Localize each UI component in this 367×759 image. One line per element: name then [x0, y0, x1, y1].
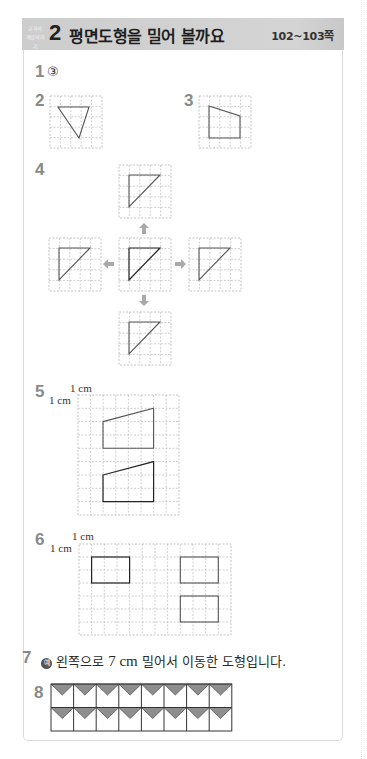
arrow-up-icon: [139, 223, 149, 234]
figure-q6: [79, 544, 231, 635]
figure-q4-bottom: [119, 312, 171, 365]
section-number: 2: [49, 20, 61, 46]
question-number-2: 2: [35, 91, 44, 111]
figure-q4-left: [49, 238, 101, 291]
arrow-right-icon: [175, 259, 186, 269]
unit-label-top: 1 cm: [72, 530, 94, 542]
figure-q3: [199, 96, 251, 148]
figure-q4-right: [189, 238, 241, 291]
unit-label-left: 1 cm: [50, 542, 72, 554]
example-mark: 예: [41, 658, 52, 669]
question-number-8: 8: [34, 683, 43, 703]
unit-label-left: 1 cm: [49, 394, 71, 406]
answer-7: 예왼쪽으로 7 cm 밀어서 이동한 도형입니다.: [37, 651, 286, 670]
figure-q4-top: [119, 165, 171, 218]
section-header: 교과서 개념익히기 2 평면도형을 밀어 볼까요 102~103쪽: [22, 18, 344, 50]
figure-q2: [50, 96, 102, 148]
page-range: 102~103쪽: [271, 27, 334, 43]
question-number-1: 1: [35, 62, 44, 82]
section-tag: 교과서 개념익히기: [25, 24, 45, 51]
question-number-4: 4: [35, 160, 44, 180]
question-number-3: 3: [184, 91, 193, 111]
section-title: 평면도형을 밀어 볼까요: [69, 23, 224, 47]
figure-q5: [78, 395, 179, 515]
figure-q4-center: [119, 238, 171, 291]
page-guide-line: [361, 0, 362, 759]
figure-q8-tile-pattern: [51, 684, 233, 732]
question-number-5: 5: [35, 382, 44, 402]
question-number-7: 7: [22, 648, 31, 668]
question-number-6: 6: [35, 530, 44, 550]
answer-1: ③: [47, 64, 59, 79]
arrow-left-icon: [103, 259, 114, 269]
arrow-down-icon: [139, 295, 149, 306]
unit-label-top: 1 cm: [70, 382, 92, 394]
